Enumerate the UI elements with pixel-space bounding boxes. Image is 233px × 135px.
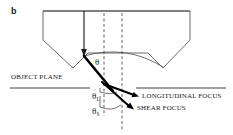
theta-longitudinal-symbol: θ <box>92 91 96 101</box>
panel-letter-label: b <box>11 7 17 16</box>
theta-shear-label: θS <box>92 107 99 116</box>
longitudinal-focus-arrowhead <box>132 92 140 97</box>
theta-shear-symbol: θ <box>92 106 96 116</box>
longitudinal-focus-label: LONGITUDINAL FOCUS <box>142 93 222 100</box>
ray-diagram-svg <box>0 0 233 135</box>
theta-shear-arc <box>100 105 121 109</box>
transducer-wedge-outline <box>43 11 190 68</box>
shear-focus-label: SHEAR FOCUS <box>137 105 186 112</box>
figure-panel-b: b OBJECT PLANE LONGITUDINAL FOCUS SHEAR … <box>0 0 233 135</box>
theta-incident-label: θ <box>95 58 99 67</box>
object-plane-label: OBJECT PLANE <box>11 74 63 81</box>
shear-focus-ray <box>102 82 129 106</box>
theta-longitudinal-subscript: L <box>97 96 100 102</box>
theta-longitudinal-label: θL <box>92 92 100 101</box>
theta-shear-subscript: S <box>97 111 100 117</box>
